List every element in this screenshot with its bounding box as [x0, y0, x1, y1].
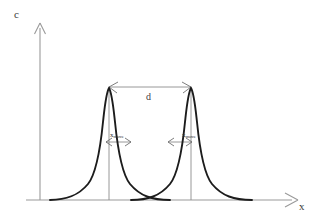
concentration-profile-figure: c x d xmove xmove: [0, 0, 316, 222]
plot-canvas: [0, 0, 316, 222]
x-move-right-arrow: [168, 138, 192, 146]
y-axis: [35, 23, 46, 200]
y-axis-label: c: [14, 8, 19, 20]
concentration-curve-peak-2: [131, 88, 252, 200]
concentration-curve-peak-1: [50, 88, 170, 200]
x-move-right-label-sub: move: [186, 134, 196, 139]
x-axis-label: x: [299, 200, 305, 212]
x-move-left-label: xmove: [110, 131, 124, 139]
x-move-left-label-sub: move: [114, 134, 124, 139]
x-move-right-label: xmove: [182, 131, 196, 139]
separation-distance-label: d: [146, 91, 151, 102]
